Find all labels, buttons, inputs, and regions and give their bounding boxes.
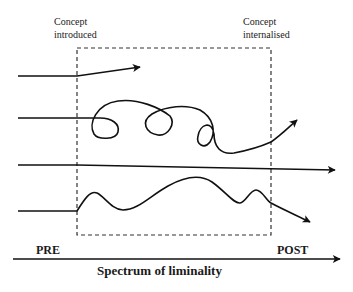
post-label: POST (277, 243, 308, 257)
path-short-exit (18, 67, 140, 76)
concept-introduced-line1: Concept (54, 15, 97, 28)
path-straight (18, 165, 335, 170)
concept-internalised-label: Concept internalised (243, 15, 290, 41)
path-wavy (18, 177, 310, 222)
concept-internalised-line2: internalised (243, 28, 290, 41)
pre-label: PRE (36, 243, 60, 257)
path-looping (18, 100, 297, 153)
concept-introduced-label: Concept introduced (54, 15, 97, 41)
liminality-diagram: Concept introduced Concept internalised … (0, 0, 353, 292)
axis-title: Spectrum of liminality (97, 264, 222, 277)
concept-introduced-line2: introduced (54, 28, 97, 41)
liminal-space-box (77, 48, 271, 235)
concept-internalised-line1: Concept (243, 15, 290, 28)
